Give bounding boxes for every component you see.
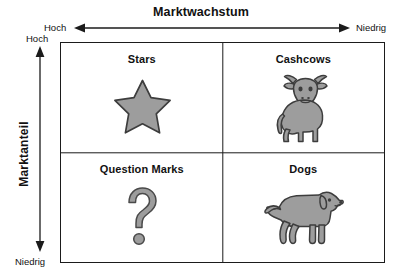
x-axis-left-label: Hoch — [44, 22, 66, 33]
quadrant-art-dogs — [223, 171, 385, 263]
quadrant-cashcows: Cashcows — [223, 43, 385, 153]
y-axis-title: Marktanteil — [17, 109, 31, 199]
y-axis-arrow-icon — [33, 45, 47, 253]
bcg-matrix-diagram: Marktwachstum Hoch Niedrig Hoch Niedrig … — [0, 0, 402, 279]
x-axis-arrow-icon — [73, 21, 351, 35]
quadrant-art-cashcows — [223, 59, 385, 153]
quadrant-stars: Stars — [61, 43, 223, 153]
quadrant-dogs: Dogs — [223, 153, 385, 263]
star-icon — [111, 77, 173, 137]
quadrant-art-stars — [61, 61, 223, 153]
x-axis: Hoch Niedrig — [44, 21, 390, 36]
quadrant-question-marks: Question Marks — [61, 153, 223, 263]
quadrant-art-question-marks — [61, 173, 223, 263]
cow-icon — [270, 67, 336, 145]
y-axis-bottom-label: Niedrig — [15, 256, 45, 267]
question-mark-icon — [121, 186, 163, 248]
x-axis-right-label: Niedrig — [356, 22, 386, 33]
x-axis-title: Marktwachstum — [0, 5, 402, 19]
dog-icon — [261, 185, 345, 247]
matrix-frame: Stars Cashcows — [60, 42, 385, 263]
y-axis-top-label: Hoch — [26, 33, 48, 44]
